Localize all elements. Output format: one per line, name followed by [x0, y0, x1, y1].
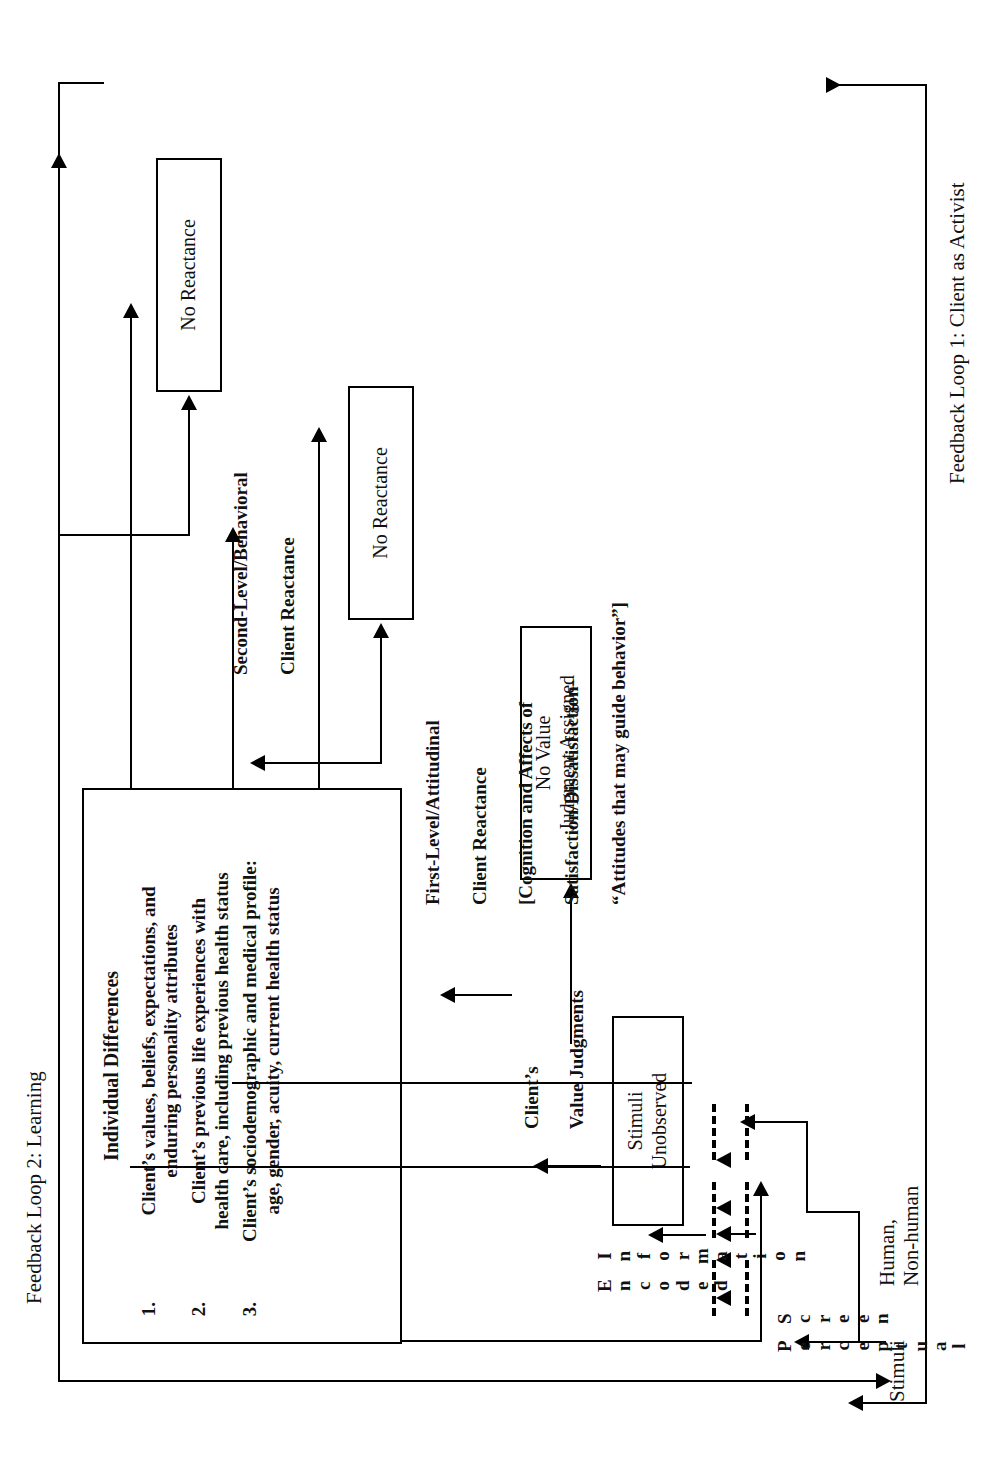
perceptual-screen-dash-a2 — [745, 1182, 749, 1238]
letter: e — [833, 1315, 852, 1323]
first-level-line-1: First-Level/Attitudinal — [422, 720, 443, 905]
human-nonhuman-line-1: Human, — [875, 1219, 899, 1286]
indiv-diff-down-line — [402, 1340, 762, 1342]
letter: E — [595, 1279, 614, 1292]
feedback-loop1-arrowhead-2 — [848, 1395, 863, 1411]
letter: a — [711, 1251, 730, 1261]
box-stimuli-unobserved-line-1: Stimuli — [624, 1092, 646, 1151]
letter: o — [769, 1251, 788, 1261]
letter: e — [853, 1342, 872, 1350]
values-to-first-level-arrowhead — [440, 987, 455, 1003]
item-line: health care, including previous health s… — [211, 872, 232, 1229]
letter: f — [634, 1253, 653, 1259]
letter: a — [930, 1341, 949, 1351]
perceptual-screen-dash-a1 — [745, 1260, 749, 1316]
feedback-loop1-line — [925, 84, 927, 1404]
letter: n — [614, 1280, 633, 1291]
encoded-riser — [660, 1234, 706, 1236]
feedback-loop1-label: Feedback Loop 1: Client as Activist — [945, 182, 970, 484]
box-stimuli-unobserved: Stimuli Unobserved — [612, 1016, 684, 1226]
individual-differences-item: 3. Client’s sociodemographic and medical… — [239, 808, 284, 1324]
feedback-loop2-left-leg — [58, 1380, 880, 1382]
indiv-diff-mid-line — [318, 438, 320, 788]
item-number: 2. — [188, 1294, 233, 1324]
letter: r — [673, 1252, 692, 1260]
first-to-second-level-line — [262, 762, 382, 764]
letter: m — [692, 1248, 711, 1264]
screen-word-stack: S c r e e n — [775, 1313, 891, 1324]
individual-differences-item: 1. Client’s values, beliefs, expectation… — [138, 808, 183, 1324]
feedback-loop2-right-leg — [58, 82, 104, 84]
human-nonhuman-line-2: Non- — [899, 1243, 923, 1286]
indiv-diff-to-second-level-arrowhead — [123, 303, 139, 318]
perceptual-word-stack: P e r c e p t u a l — [775, 1340, 969, 1352]
perceptual-screen-dash-a3 — [745, 1104, 749, 1160]
item-number: 3. — [239, 1294, 284, 1324]
second-level-block: Second-Level/Behavioral Client Reactance — [206, 472, 322, 694]
box-stimuli-unobserved-line-2: Unobserved — [648, 1073, 670, 1170]
first-level-line-5: “Attitudes that may guide behavior”] — [608, 602, 629, 905]
indiv-diff-to-screen-line — [760, 1192, 762, 1342]
letter: S — [775, 1313, 794, 1324]
box-individual-differences: Individual Differences 1. Client’s value… — [82, 788, 402, 1344]
second-level-line-2: Client Reactance — [277, 537, 298, 675]
screen-pierce-arrow-1 — [716, 1290, 731, 1306]
letter: c — [833, 1342, 852, 1350]
indiv-diff-to-first-level-line — [232, 538, 234, 788]
letter: e — [853, 1315, 872, 1323]
box-no-reactance-2: No Reactance — [156, 158, 222, 392]
first-level-line-4: Satisfaction/Dissatisfaction- — [561, 680, 582, 905]
second-level-out-riser — [58, 534, 190, 536]
encoded-riser-arrowhead — [648, 1227, 663, 1243]
letter: c — [634, 1281, 653, 1289]
feedback-loop1-arrowhead — [826, 77, 841, 93]
indiv-diff-to-second-level-line — [130, 314, 132, 788]
indiv-diff-to-screen-arrowhead — [753, 1181, 769, 1196]
first-level-branch-arrowhead — [373, 623, 389, 638]
letter: e — [794, 1342, 813, 1350]
item-line: Client’s sociodemographic and medical pr… — [239, 860, 260, 1242]
box-no-reactance-2-label: No Reactance — [177, 219, 201, 331]
loop-inner-leg-1 — [130, 1166, 690, 1168]
screen-pierce-stem — [722, 1233, 756, 1235]
letter: d — [711, 1280, 730, 1291]
letter: e — [692, 1281, 711, 1289]
second-level-out-arrowhead — [51, 153, 67, 168]
feedback-loop2-label: Feedback Loop 2: Learning — [22, 1071, 47, 1304]
second-level-branch-arrowhead — [181, 395, 197, 410]
human-nonhuman-line-3: human — [899, 1186, 923, 1243]
human-nonhuman-label: Human,Non-human — [876, 1186, 923, 1286]
unobserved-feed-line — [752, 1121, 808, 1123]
letter: t — [731, 1253, 750, 1259]
stimuli-branch-v — [806, 1211, 860, 1213]
letter: r — [814, 1342, 833, 1350]
letter: o — [653, 1251, 672, 1261]
individual-differences-heading: Individual Differences — [100, 808, 124, 1324]
letter: t — [891, 1343, 910, 1349]
item-line: enduring personality attributes — [160, 924, 181, 1177]
feedback-loop2-arrowhead — [876, 1373, 891, 1389]
diagram-canvas: Feedback Loop 1: Client as Activist Stim… — [0, 0, 982, 1464]
rotated-diagram-layer: Feedback Loop 1: Client as Activist Stim… — [0, 0, 982, 1464]
letter: n — [872, 1313, 891, 1324]
client-value-judgments-label: Client’s Value Judgments — [498, 990, 612, 1148]
stimuli-branch-h2 — [806, 1121, 808, 1213]
second-level-out-line — [58, 164, 60, 284]
cvj-line-1: Client’s — [521, 1066, 542, 1129]
letter: n — [614, 1251, 633, 1262]
second-level-branch-line — [188, 406, 190, 536]
first-to-second-level-arrowhead — [250, 755, 265, 771]
letter: I — [595, 1252, 614, 1259]
screen-pierce-arrow-5 — [716, 1152, 731, 1168]
letter: l — [949, 1344, 968, 1349]
feedback-loop1-drop — [860, 1402, 927, 1404]
first-level-branch-line — [380, 634, 382, 764]
indiv-diff-to-first-level-arrowhead — [225, 527, 241, 542]
letter: P — [775, 1340, 794, 1352]
letter: u — [911, 1341, 930, 1352]
item-line: Client’s previous life experiences with — [188, 898, 209, 1204]
box-no-reactance-1-label: No Reactance — [369, 447, 393, 559]
letter: r — [814, 1315, 833, 1323]
first-level-line-2: Client Reactance — [469, 767, 490, 905]
letter: o — [653, 1281, 672, 1291]
